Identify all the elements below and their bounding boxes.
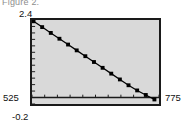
- data-point-markers: [32, 20, 156, 101]
- data-point-marker: [135, 89, 139, 93]
- data-point-marker: [92, 60, 96, 64]
- data-point-marker: [32, 20, 35, 23]
- data-point-marker: [75, 48, 79, 52]
- data-point-marker: [101, 66, 105, 70]
- x-axis-min-label: 525: [3, 93, 19, 103]
- figure-caption: Figure 2.: [2, 0, 39, 7]
- figure-container: Figure 2. 2.4 -0.2 525 775: [0, 0, 188, 130]
- data-point-marker: [49, 31, 53, 35]
- data-point-marker: [40, 25, 44, 29]
- y-axis-min-label: -0.2: [12, 112, 28, 122]
- data-point-marker: [127, 83, 131, 87]
- y-axis-ticks: [32, 20, 35, 104]
- x-axis-max-label: 775: [165, 93, 181, 103]
- data-point-marker: [57, 37, 61, 41]
- data-point-marker: [144, 93, 148, 97]
- plot-area: [30, 18, 161, 106]
- data-point-marker: [152, 98, 156, 102]
- data-point-marker: [118, 78, 122, 82]
- data-point-marker: [109, 72, 113, 76]
- plot-canvas: [32, 20, 159, 104]
- data-point-marker: [83, 54, 87, 58]
- data-point-marker: [66, 43, 70, 47]
